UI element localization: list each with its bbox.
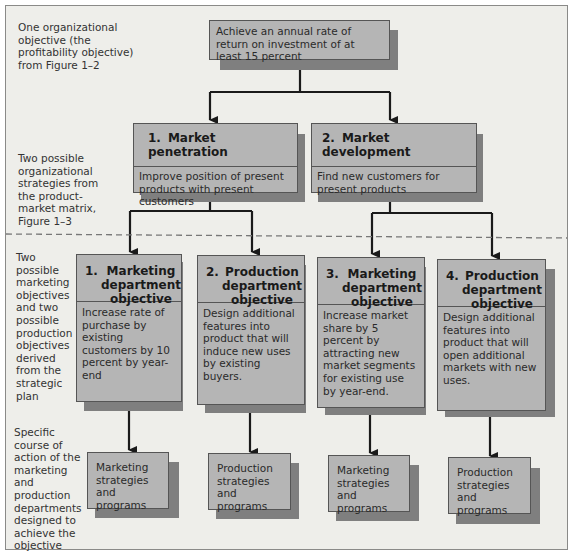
objective-2-description: Design additional features into product … — [198, 303, 304, 387]
objective-4-number: 4. — [446, 269, 462, 300]
level-divider — [6, 234, 567, 238]
program-box-3-marketing: Marketing strategies and programs — [328, 455, 410, 512]
objective-box-1-marketing: 1. Marketing department objective Increa… — [76, 254, 182, 402]
objective-4-title: Production department objective — [462, 269, 542, 300]
program-box-1-marketing: Marketing strategies and programs — [87, 452, 169, 509]
strategy-2-description: Find new customers for present products — [312, 167, 476, 198]
objective-box-3-marketing: 3. Marketing department objective Increa… — [317, 257, 425, 408]
objective-1-header: 1. Marketing department objective — [77, 255, 181, 302]
objective-box-2-production: 2. Production department objective Desig… — [197, 255, 305, 405]
strategy-1-description: Improve position of present products wit… — [134, 167, 297, 211]
objective-box-4-production: 4. Production department objective Desig… — [437, 259, 546, 411]
strategy-2-title: Market development — [322, 131, 411, 159]
objective-4-description: Design additional features into product … — [438, 307, 545, 391]
objective-2-title: Production department objective — [222, 265, 302, 296]
objective-2-header: 2. Production department objective — [198, 256, 304, 303]
objective-3-description: Increase market share by 5 percent by at… — [318, 305, 424, 401]
strategy-1-number: 1. — [148, 131, 161, 145]
strategy-2-title-row: 2.Market development — [312, 124, 476, 167]
strategy-box-market-development: 2.Market development Find new customers … — [311, 123, 477, 193]
program-4-text: Production strategies and programs — [457, 466, 522, 516]
objective-1-title: Marketing department objective — [101, 264, 181, 295]
objective-3-title: Marketing department objective — [342, 267, 422, 298]
strategy-box-market-penetration: 1.Market penetration Improve position of… — [133, 123, 298, 193]
program-3-text: Marketing strategies and programs — [337, 464, 401, 514]
program-2-text: Production strategies and programs — [217, 462, 282, 512]
objective-4-header: 4. Production department objective — [438, 260, 545, 307]
objective-2-number: 2. — [206, 265, 222, 296]
strategy-1-title-row: 1.Market penetration — [134, 124, 297, 167]
program-box-4-production: Production strategies and programs — [448, 457, 531, 514]
program-1-text: Marketing strategies and programs — [96, 461, 160, 511]
objective-3-number: 3. — [326, 267, 342, 298]
top-objective-box: Achieve an annual rate of return on inve… — [209, 20, 390, 60]
objective-1-description: Increase rate of purchase by existing cu… — [77, 302, 181, 386]
top-objective-text: Achieve an annual rate of return on inve… — [216, 25, 383, 63]
objective-3-header: 3. Marketing department objective — [318, 258, 424, 305]
objective-1-number: 1. — [85, 264, 101, 295]
program-box-2-production: Production strategies and programs — [208, 453, 291, 510]
strategy-2-number: 2. — [322, 131, 335, 145]
